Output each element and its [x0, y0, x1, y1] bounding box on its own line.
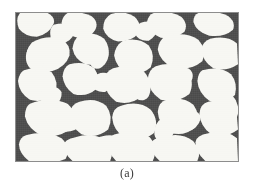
microstructure-svg [16, 13, 238, 161]
micrograph-image [15, 12, 239, 162]
grain [195, 132, 238, 161]
figure-container: (a) [0, 0, 254, 186]
figure-caption: (a) [0, 166, 254, 181]
